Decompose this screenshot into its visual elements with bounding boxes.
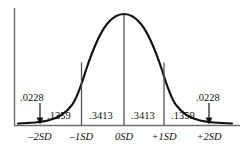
axis-tick-label-0sd: 0SD [115,132,133,143]
axis-tick-label-neg1sd: –1SD [70,132,93,143]
area-label-neg2-to-neg1: .1359 [47,111,71,122]
axis-tick-label-neg2sd: –2SD [28,132,51,143]
axis-tick-label-pos1sd: +1SD [151,132,176,143]
normal-distribution-figure: .0228 .0228 .1359 .3413 .3413 .1359 –2SD… [0,0,246,156]
area-label-right-tail: .0228 [196,93,220,104]
area-label-neg1-to-0: .3413 [89,111,113,122]
area-label-pos1-to-pos2: .1359 [171,111,195,122]
axis-tick-label-pos2sd: +2SD [196,132,221,143]
area-label-0-to-pos1: .3413 [131,111,155,122]
normal-curve-path [18,14,232,124]
area-label-left-tail: .0228 [20,93,44,104]
